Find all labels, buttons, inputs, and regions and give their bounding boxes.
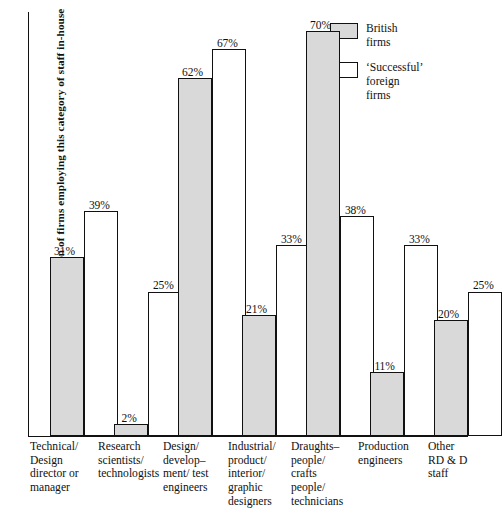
category-label-4-line-3: interior/ <box>228 467 298 481</box>
bar-british-6: 11% <box>370 372 404 436</box>
category-label-7-line-3: staff <box>428 467 500 481</box>
legend-label-foreign-line-1: ‘Successful’ <box>366 61 423 75</box>
category-label-2-line-2: scientists/ <box>98 454 166 468</box>
bar-foreign-7: 25% <box>468 292 502 437</box>
bar-value-british-4: 21% <box>246 303 267 316</box>
bar-british-3: 62% <box>178 78 212 436</box>
bar-value-foreign-7: 25% <box>473 279 494 292</box>
category-label-5: Draughts–people/craftspeople/technicians <box>291 440 363 508</box>
bar-value-british-7: 20% <box>438 308 459 321</box>
legend-item-foreign: ‘Successful’ foreign firms <box>330 61 470 102</box>
category-label-3-line-2: develop– <box>163 454 233 468</box>
bar-value-foreign-3: 67% <box>217 37 238 50</box>
bar-value-british-1: 31% <box>54 245 75 258</box>
bar-foreign-3: 67% <box>212 49 246 436</box>
category-label-4-line-2: product/ <box>228 454 298 468</box>
bar-foreign-6: 33% <box>404 245 438 436</box>
bar-british-2: 2% <box>114 424 148 436</box>
legend-item-british: British firms <box>330 22 470 49</box>
bar-value-foreign-4: 33% <box>281 233 302 246</box>
bar-value-foreign-2: 25% <box>153 279 174 292</box>
bar-british-5: 70% <box>306 31 340 436</box>
bar-foreign-5: 38% <box>340 216 374 436</box>
category-label-6-line-1: Production <box>358 440 430 454</box>
legend-label-british: British firms <box>366 22 398 49</box>
category-label-3-line-1: Design/ <box>163 440 233 454</box>
bar-foreign-1: 39% <box>84 211 118 436</box>
legend-label-british-line-1: British <box>366 22 398 36</box>
category-label-7-line-2: RD & D <box>428 454 500 468</box>
category-label-7: OtherRD & Dstaff <box>428 440 500 481</box>
category-label-3-line-4: engineers <box>163 481 233 495</box>
category-label-6-line-2: engineers <box>358 454 430 468</box>
bar-value-foreign-5: 38% <box>345 204 366 217</box>
category-label-2-line-3: technologists <box>98 467 166 481</box>
bar-british-1: 31% <box>50 257 84 436</box>
category-label-5-line-5: technicians <box>291 495 363 509</box>
legend-label-foreign: ‘Successful’ foreign firms <box>366 61 423 102</box>
category-label-1: Technical/Designdirector ormanager <box>30 440 100 495</box>
legend-label-british-line-2: firms <box>366 36 398 50</box>
x-axis-line <box>28 436 468 437</box>
bar-british-4: 21% <box>242 315 276 436</box>
category-label-1-line-1: Technical/ <box>30 440 100 454</box>
bar-value-british-6: 11% <box>374 360 394 373</box>
category-label-1-line-3: director or <box>30 467 100 481</box>
category-label-4-line-4: graphic <box>228 481 298 495</box>
bar-value-foreign-1: 39% <box>89 199 110 212</box>
legend-label-foreign-line-3: firms <box>366 89 423 103</box>
category-label-2-line-1: Research <box>98 440 166 454</box>
category-label-5-line-2: people/ <box>291 454 363 468</box>
category-label-4-line-5: designers <box>228 495 298 509</box>
category-labels: Technical/Designdirector ormanagerResear… <box>28 440 476 531</box>
category-label-2: Researchscientists/technologists <box>98 440 166 481</box>
bar-foreign-4: 33% <box>276 245 310 436</box>
category-label-4: Industrial/product/interior/graphicdesig… <box>228 440 298 508</box>
bar-value-british-5: 70% <box>310 19 331 32</box>
category-label-1-line-2: Design <box>30 454 100 468</box>
legend: British firms ‘Successful’ foreign firms <box>330 22 470 114</box>
category-label-7-line-1: Other <box>428 440 500 454</box>
category-label-5-line-3: crafts <box>291 467 363 481</box>
bar-british-7: 20% <box>434 320 468 436</box>
y-axis-line <box>28 12 29 437</box>
category-label-3: Design/develop–ment/ testengineers <box>163 440 233 495</box>
bar-value-british-2: 2% <box>122 412 137 425</box>
bar-value-british-3: 62% <box>182 66 203 79</box>
category-label-3-line-3: ment/ test <box>163 467 233 481</box>
legend-label-foreign-line-2: foreign <box>366 75 423 89</box>
category-label-6: Productionengineers <box>358 440 430 467</box>
category-label-5-line-1: Draughts– <box>291 440 363 454</box>
category-label-1-line-4: manager <box>30 481 100 495</box>
bar-foreign-2: 25% <box>148 292 182 437</box>
category-label-4-line-1: Industrial/ <box>228 440 298 454</box>
bar-value-foreign-6: 33% <box>409 233 430 246</box>
category-label-5-line-4: people/ <box>291 481 363 495</box>
